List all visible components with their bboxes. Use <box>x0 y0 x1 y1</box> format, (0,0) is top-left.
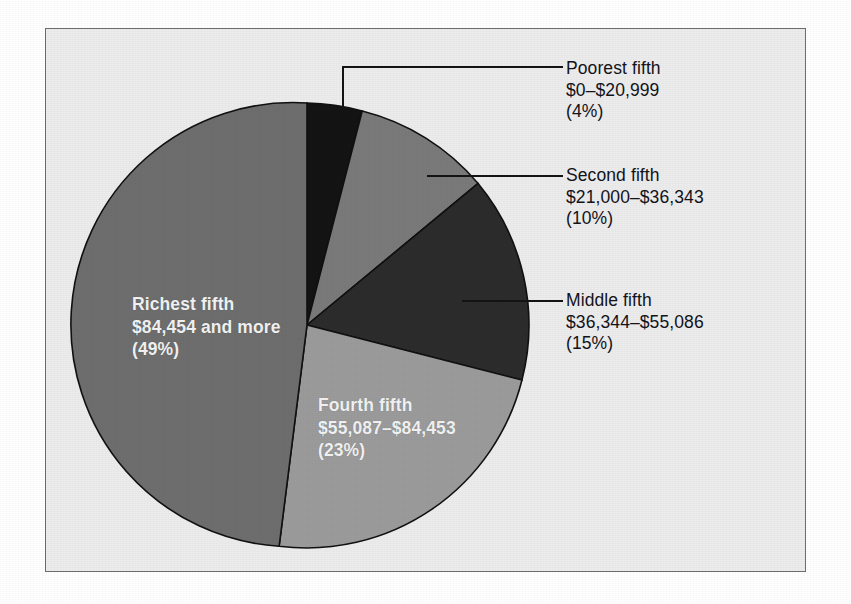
slice-label-richest-fifth: Richest fifth $84,454 and more (49%) <box>132 293 281 361</box>
slice-label-middle-fifth: Middle fifth $36,344–$55,086 (15%) <box>566 290 704 355</box>
slice-label-fourth-fifth-range: $55,087–$84,453 <box>318 417 456 440</box>
slice-label-fourth-fifth-name: Fourth fifth <box>318 394 456 417</box>
slice-label-poorest-fifth-percent: (4%) <box>566 101 661 123</box>
slice-label-richest-fifth-range: $84,454 and more <box>132 316 281 339</box>
slice-label-richest-fifth-name: Richest fifth <box>132 293 281 316</box>
slice-label-middle-fifth-range: $36,344–$55,086 <box>566 312 704 334</box>
slice-label-middle-fifth-percent: (15%) <box>566 333 704 355</box>
slice-label-second-fifth-name: Second fifth <box>566 165 704 187</box>
slice-label-second-fifth-percent: (10%) <box>566 208 704 230</box>
slice-label-fourth-fifth: Fourth fifth $55,087–$84,453 (23%) <box>318 394 456 462</box>
slice-label-second-fifth-range: $21,000–$36,343 <box>566 187 704 209</box>
leader-line-poorest-fifth <box>343 67 563 122</box>
slice-label-poorest-fifth: Poorest fifth $0–$20,999 (4%) <box>566 58 661 123</box>
pie-chart-figure: Poorest fifth $0–$20,999 (4%) Second fif… <box>0 0 851 604</box>
pie-svg <box>0 0 851 604</box>
slice-label-richest-fifth-percent: (49%) <box>132 338 281 361</box>
slice-label-poorest-fifth-range: $0–$20,999 <box>566 80 661 102</box>
slice-label-fourth-fifth-percent: (23%) <box>318 439 456 462</box>
slice-label-poorest-fifth-name: Poorest fifth <box>566 58 661 80</box>
slice-label-middle-fifth-name: Middle fifth <box>566 290 704 312</box>
chart-stage: Poorest fifth $0–$20,999 (4%) Second fif… <box>0 0 851 604</box>
slice-label-second-fifth: Second fifth $21,000–$36,343 (10%) <box>566 165 704 230</box>
